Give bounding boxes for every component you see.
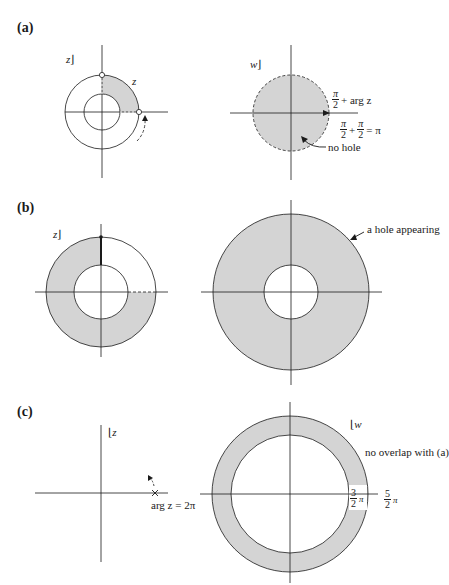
c-z-plane-label: ⌊z — [108, 426, 117, 439]
b-z-plane-label: z⌋ — [53, 228, 62, 241]
a-eq-half-pi-plus-arg: π2 + arg z — [332, 87, 371, 110]
c-inner-angle-3-2-pi: 32 π — [350, 486, 364, 509]
a-z-plane-label: z⌋ — [66, 53, 75, 66]
a-w-plane-label: w⌋ — [250, 58, 262, 71]
panel-a-z-plane — [65, 45, 168, 178]
panel-b-z-plane — [35, 224, 168, 357]
a-point-z-label: z — [132, 75, 136, 87]
panel-b-w-plane — [201, 200, 382, 385]
panel-label-c: (c) — [17, 404, 33, 420]
a-eq-pi: π2 + π2 = π — [340, 117, 381, 140]
panel-label-a: (a) — [17, 20, 33, 36]
a-annotation-no-hole: no hole — [328, 141, 361, 153]
b-annotation-hole-appearing: a hole appearing — [367, 223, 440, 235]
panel-label-b: (b) — [17, 200, 34, 216]
diagram-canvas — [0, 0, 449, 585]
c-w-plane-label: ⌊w — [350, 418, 362, 431]
c-annotation-no-overlap: no overlap with (a) — [365, 446, 449, 458]
c-arg-z-label: arg z = 2π — [151, 499, 195, 511]
c-outer-angle-5-2-pi: 52 π — [384, 487, 398, 510]
panel-c-z-plane — [35, 425, 168, 562]
